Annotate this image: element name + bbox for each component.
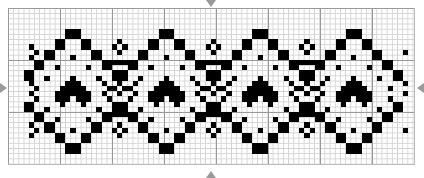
filled-cell <box>122 76 127 81</box>
filled-cell <box>211 50 216 55</box>
filled-cell <box>122 86 127 91</box>
filled-cell <box>289 91 294 96</box>
filled-cell <box>403 128 408 133</box>
filled-cell <box>341 102 346 107</box>
filled-cell <box>195 91 200 96</box>
filled-cell <box>289 81 294 86</box>
filled-cell <box>367 138 372 143</box>
filled-cell <box>86 65 91 70</box>
filled-cell <box>122 112 127 117</box>
center-arrow-right-icon <box>417 83 424 93</box>
filled-cell <box>29 55 34 60</box>
filled-cell <box>320 81 325 86</box>
filled-cell <box>138 76 143 81</box>
filled-cell <box>216 76 221 81</box>
filled-cell <box>138 107 143 112</box>
filled-cell <box>122 128 127 133</box>
filled-cell <box>34 96 39 101</box>
filled-cell <box>65 96 70 101</box>
filled-cell <box>284 128 289 133</box>
filled-cell <box>304 50 309 55</box>
filled-cell <box>143 55 148 60</box>
filled-cell <box>320 91 325 96</box>
filled-cell <box>86 138 91 143</box>
filled-cell <box>39 65 44 70</box>
filled-cell <box>388 117 393 122</box>
filled-cell <box>330 55 335 60</box>
filled-cell <box>55 65 60 70</box>
filled-cell <box>86 96 91 101</box>
filled-cell <box>398 107 403 112</box>
filled-cell <box>273 138 278 143</box>
filled-cell <box>133 65 138 70</box>
filled-cell <box>133 91 138 96</box>
filled-cell <box>70 128 75 133</box>
filled-cell <box>226 65 231 70</box>
filled-cell <box>29 81 34 86</box>
filled-cell <box>320 65 325 70</box>
filled-cell <box>96 128 101 133</box>
filled-cell <box>34 86 39 91</box>
filled-cell <box>232 107 237 112</box>
filled-cell <box>50 55 55 60</box>
filled-cell <box>377 76 382 81</box>
filled-cell <box>341 44 346 49</box>
filled-cell <box>242 65 247 70</box>
center-arrow-bottom-icon <box>206 171 216 178</box>
filled-cell <box>122 44 127 49</box>
filled-cell <box>325 107 330 112</box>
filled-cell <box>216 128 221 133</box>
filled-cell <box>117 50 122 55</box>
filled-cell <box>70 55 75 60</box>
filled-cell <box>221 96 226 101</box>
filled-cell <box>44 76 49 81</box>
filled-cell <box>216 60 221 65</box>
filled-cell <box>164 55 169 60</box>
filled-cell <box>211 133 216 138</box>
filled-cell <box>273 96 278 101</box>
filled-cell <box>226 81 231 86</box>
pattern-grid <box>8 8 415 165</box>
filled-cell <box>362 102 367 107</box>
filled-cell <box>237 55 242 60</box>
filled-cell <box>29 133 34 138</box>
filled-cell <box>273 65 278 70</box>
filled-cell <box>128 96 133 101</box>
filled-cell <box>310 44 315 49</box>
filled-cell <box>310 112 315 117</box>
filled-cell <box>200 117 205 122</box>
filled-cell <box>356 148 361 153</box>
filled-cell <box>159 96 164 101</box>
filled-cell <box>258 55 263 60</box>
filled-cell <box>102 81 107 86</box>
filled-cell <box>195 81 200 86</box>
center-arrow-left-icon <box>0 83 7 93</box>
filled-cell <box>148 117 153 122</box>
filled-cell <box>377 128 382 133</box>
filled-cell <box>34 128 39 133</box>
center-arrow-top-icon <box>206 0 216 7</box>
filled-cell <box>247 102 252 107</box>
filled-cell <box>34 50 39 55</box>
filled-cell <box>403 50 408 55</box>
filled-cell <box>154 102 159 107</box>
filled-cell <box>351 55 356 60</box>
filled-cell <box>310 60 315 65</box>
filled-cell <box>304 91 309 96</box>
filled-cell <box>81 102 86 107</box>
filled-cell <box>367 65 372 70</box>
filled-cell <box>232 76 237 81</box>
filled-cell <box>216 86 221 91</box>
filled-cell <box>268 102 273 107</box>
filled-cell <box>169 148 174 153</box>
filled-cell <box>180 138 185 143</box>
filled-cell <box>403 81 408 86</box>
filled-cell <box>55 117 60 122</box>
filled-cell <box>216 112 221 117</box>
filled-cell <box>117 133 122 138</box>
filled-cell <box>216 44 221 49</box>
filled-cell <box>388 86 393 91</box>
filled-cell <box>242 117 247 122</box>
filled-cell <box>252 96 257 101</box>
filled-cell <box>226 91 231 96</box>
